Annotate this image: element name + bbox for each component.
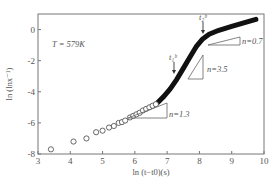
y-tick-label: 0: [31, 25, 36, 35]
x-tick-label: 8: [197, 156, 202, 166]
data-point: [94, 130, 99, 135]
slope-label-2: n=3.5: [207, 64, 228, 74]
data-point: [153, 102, 158, 107]
data-point: [123, 118, 128, 123]
data-point: [84, 136, 89, 141]
x-axis-title: ln (t−t0)(s): [132, 167, 169, 177]
arrow-label-t1: t₁ᵇ: [169, 52, 177, 62]
data-point: [71, 139, 76, 144]
x-tick-label: 10: [260, 156, 270, 166]
slope-triangle-3: [208, 37, 240, 45]
arrow-label-t2: t₂ᵇ: [199, 12, 207, 22]
y-tick-label: -8: [28, 149, 36, 159]
arrow-t1-head: [172, 70, 176, 74]
chart: 345678910 0-2-4-6-8 T = 579Kn=1.3n=3.5n=…: [0, 0, 279, 186]
data-point: [48, 147, 53, 152]
x-tick-label: 9: [229, 156, 234, 166]
x-tick-label: 5: [100, 156, 105, 166]
y-tick-label: -6: [28, 118, 36, 128]
y-axis: 0-2-4-6-8: [28, 25, 42, 159]
x-tick-label: 6: [133, 156, 138, 166]
y-tick-label: -2: [28, 56, 36, 66]
x-axis: 345678910: [36, 151, 269, 166]
y-tick-label: -4: [28, 87, 36, 97]
y-axis-title: ln (lnx⁻¹): [4, 67, 14, 100]
temperature-label: T = 579K: [52, 39, 86, 49]
arrow-t2-head: [201, 30, 205, 34]
x-tick-label: 4: [68, 156, 73, 166]
data-point: [111, 123, 116, 128]
data-point: [106, 125, 111, 130]
x-tick-label: 3: [36, 156, 41, 166]
x-tick-label: 7: [165, 156, 170, 166]
plot-frame: [38, 14, 264, 154]
slope-label-1: n=1.3: [169, 109, 190, 119]
slope-label-3: n=0.7: [242, 36, 263, 46]
data-point: [100, 128, 105, 133]
